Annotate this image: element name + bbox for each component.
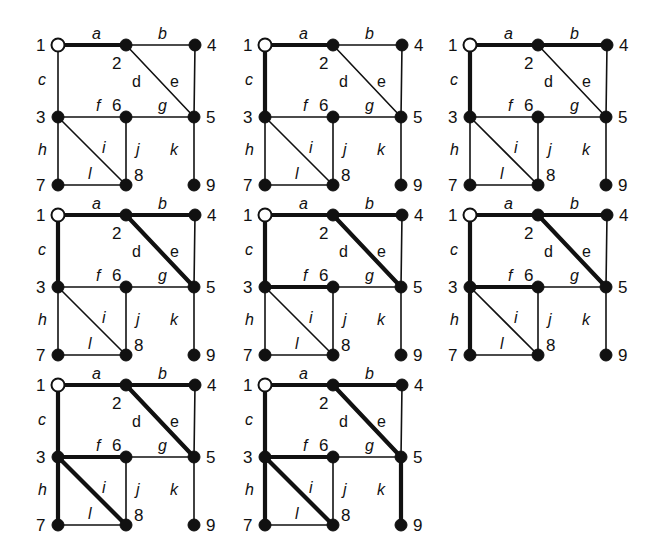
node-8 (327, 519, 339, 531)
edge-label-d: d (339, 413, 348, 430)
node-6 (327, 451, 339, 463)
node-label-9: 9 (413, 516, 422, 535)
node-5 (395, 451, 407, 463)
root-node-1 (259, 379, 272, 392)
node-label-1: 1 (243, 376, 252, 395)
edge-label-a: a (299, 365, 308, 382)
node-7 (259, 519, 271, 531)
spanning-tree-figure: abcdefghijkl124365789abcdefghijkl1243657… (0, 0, 660, 559)
edge-label-l: l (295, 505, 299, 522)
node-2 (327, 379, 339, 391)
edge-label-g: g (365, 437, 374, 454)
edge-label-f: f (303, 437, 309, 454)
node-3 (259, 451, 271, 463)
edge-label-c: c (245, 411, 253, 428)
edge-e (401, 385, 402, 457)
edge-label-e: e (377, 413, 386, 430)
edge-label-j: j (341, 481, 347, 498)
edge-label-h: h (245, 481, 254, 498)
node-label-3: 3 (243, 448, 252, 467)
edge-label-k: k (377, 481, 386, 498)
graph-panel-step-8: abcdefghijkl124365789 (0, 0, 660, 559)
node-4 (396, 379, 408, 391)
node-9 (395, 519, 407, 531)
edge-label-i: i (309, 479, 313, 496)
edge-label-b: b (365, 365, 374, 382)
node-label-4: 4 (414, 376, 423, 395)
node-label-5: 5 (413, 448, 422, 467)
node-label-6: 6 (319, 436, 328, 455)
node-label-8: 8 (341, 506, 350, 525)
node-label-7: 7 (243, 516, 252, 535)
node-label-2: 2 (319, 394, 328, 413)
edge-i-tree (265, 457, 333, 525)
